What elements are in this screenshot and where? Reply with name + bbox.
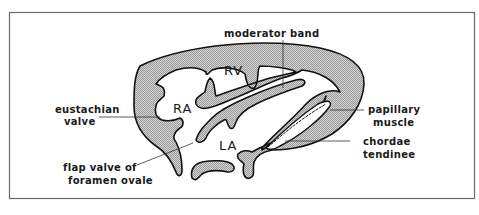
label-flap-valve-line1: flap valve of xyxy=(63,162,137,174)
label-flap-valve-line2: foramen ovale xyxy=(68,175,153,187)
chamber-label-la: LA xyxy=(219,138,237,153)
chamber-label-ra: RA xyxy=(173,101,192,116)
label-papillary-line2: muscle xyxy=(373,117,414,129)
label-eustachian-line1: eustachian xyxy=(55,104,120,116)
label-chordae-line2: tendinee xyxy=(363,149,415,161)
label-chordae-line1: chordae xyxy=(363,136,411,148)
lower-atrial-wall-shape xyxy=(191,161,234,180)
label-papillary-line1: papillary xyxy=(368,104,420,116)
label-eustachian-line2: valve xyxy=(64,116,96,128)
label-moderator-band: moderator band xyxy=(224,28,319,40)
chamber-label-rv: RV xyxy=(224,63,243,78)
heart-wall-shape xyxy=(134,43,364,178)
heart-diagram: RV RA LA moderator band eustachian valve… xyxy=(0,0,479,215)
